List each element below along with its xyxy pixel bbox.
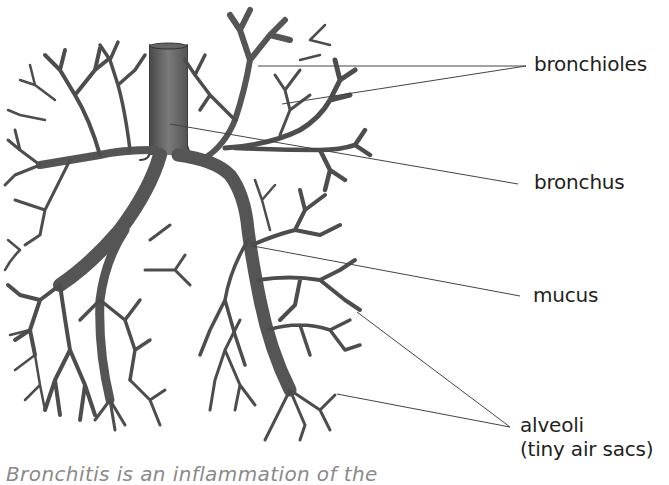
leader-lines	[170, 66, 526, 427]
leader-line-mucus	[253, 246, 520, 296]
label-alveoli-subtitle: (tiny air sacs)	[520, 438, 653, 461]
label-alveoli: alveoli	[520, 414, 584, 437]
caption-text: Bronchitis is an inflammation of the	[6, 462, 378, 485]
label-bronchioles: bronchioles	[534, 53, 647, 76]
label-bronchus: bronchus	[534, 171, 625, 194]
leader-line-alveoli-1	[357, 312, 510, 427]
leader-line-bronchioles-2	[282, 66, 526, 104]
leader-line-alveoli-2	[337, 394, 510, 427]
label-mucus: mucus	[533, 284, 598, 307]
airway-tree	[5, 10, 370, 440]
